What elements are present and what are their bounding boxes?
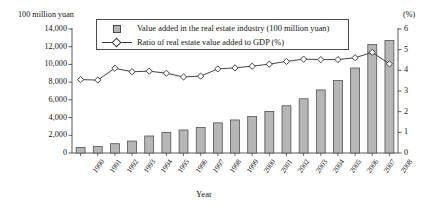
y-axis-right-tick-label: 5 <box>404 46 408 54</box>
y-axis-right-tick-label: 2 <box>404 108 408 116</box>
y-axis-left-tick-label: 8,000 <box>20 78 67 86</box>
line-diamond-swatch-icon <box>97 38 137 47</box>
y-axis-left-tick-label: 12,000 <box>20 43 67 51</box>
y-axis-right-tick-label: 1 <box>404 128 408 136</box>
legend-label-line: Ratio of real estate value added to GDP … <box>137 38 284 47</box>
y-axis-right-tick-label: 0 <box>404 149 408 157</box>
y-axis-right-tick-label: 6 <box>404 25 408 33</box>
legend-item-line: Ratio of real estate value added to GDP … <box>97 35 348 50</box>
legend-item-bar: Value added in the real estate industry … <box>97 21 348 36</box>
y-axis-left-tick-label: 4,000 <box>20 113 67 121</box>
y-axis-left-tick-label: 0 <box>20 149 67 157</box>
bar-swatch-icon <box>97 25 137 33</box>
real-estate-value-added-chart: 100 million yuan (%) Year 02,0004,0006,0… <box>0 0 434 209</box>
chart-legend: Value added in the real estate industry … <box>96 19 349 50</box>
y-axis-left-tick-label: 10,000 <box>20 60 67 68</box>
y-axis-left-tick-label: 14,000 <box>20 25 67 33</box>
y-axis-left-tick-label: 6,000 <box>20 96 67 104</box>
y-axis-right-tick-label: 3 <box>404 87 408 95</box>
y-axis-right-tick-label: 4 <box>404 66 408 74</box>
y-axis-left-tick-label: 2,000 <box>20 131 67 139</box>
legend-label-bar: Value added in the real estate industry … <box>137 24 329 33</box>
